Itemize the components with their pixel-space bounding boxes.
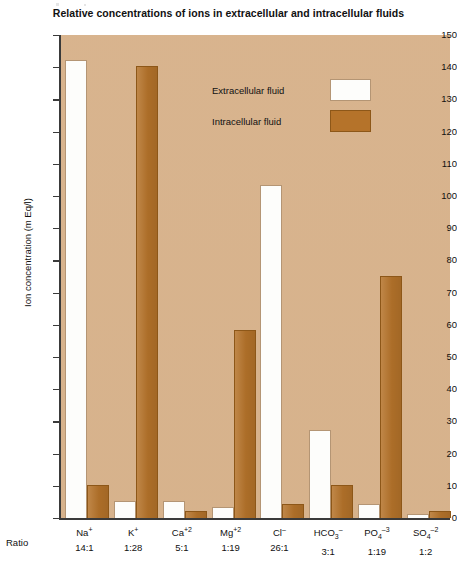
ion-label: Mg+2: [206, 522, 255, 540]
x-axis-category: SO4–21:2: [401, 522, 450, 559]
y-axis-tick: [53, 260, 60, 261]
bar-intracellular: [136, 66, 158, 518]
ratio-row-label: Ratio: [6, 537, 28, 548]
bar-extracellular: [407, 514, 429, 518]
bar-extracellular: [260, 185, 282, 518]
ion-label: Cl–: [255, 522, 304, 540]
legend-item-intracellular: Intracellular fluid: [212, 111, 371, 131]
bar-extracellular: [114, 501, 136, 518]
x-axis-category: HCO3–3:1: [304, 522, 353, 559]
y-axis-tick: [53, 454, 60, 455]
y-axis-tick: [53, 518, 60, 519]
y-axis-tick: [53, 389, 60, 390]
bar-extracellular: [212, 507, 234, 518]
y-axis-tick: [53, 293, 60, 294]
y-axis-tick: [53, 99, 60, 100]
y-axis-tick: [53, 132, 60, 133]
ion-ratio: 1:19: [206, 540, 255, 555]
y-axis-tick: [53, 164, 60, 165]
bar-extracellular: [65, 60, 87, 518]
y-axis-tick: [53, 486, 60, 487]
bar-intracellular: [87, 485, 109, 518]
y-axis-tick: [53, 228, 60, 229]
bar-intracellular: [282, 504, 304, 518]
bar-intracellular: [429, 511, 451, 518]
x-axis-line: [59, 518, 450, 520]
x-axis-category-labels: Na+14:1K+1:28Ca+25:1Mg+21:19Cl–26:1HCO3–…: [60, 522, 450, 566]
ion-ratio: 26:1: [255, 540, 304, 555]
legend-label-extracellular: Extracellular fluid: [212, 85, 330, 96]
bar-group: [65, 35, 107, 518]
bar-extracellular: [358, 504, 380, 518]
x-axis-category: Na+14:1: [60, 522, 109, 555]
bar-chart: Relative concentrations of ions in extra…: [0, 0, 457, 566]
x-axis-category: Cl–26:1: [255, 522, 304, 555]
ion-label: PO4–3: [353, 522, 402, 544]
bar-group: [163, 35, 205, 518]
ion-ratio: 5:1: [158, 540, 207, 555]
scan-speck: [56, 3, 59, 6]
ion-ratio: 14:1: [60, 540, 109, 555]
bar-extracellular: [309, 430, 331, 518]
ion-ratio: 1:19: [353, 544, 402, 559]
ion-ratio: 1:28: [109, 540, 158, 555]
bar-intracellular: [185, 511, 207, 518]
y-axis-tick: [53, 67, 60, 68]
y-axis-title: Ion concentration (m Eq/l): [22, 173, 33, 333]
ion-label: HCO3–: [304, 522, 353, 544]
bar-intracellular: [234, 330, 256, 518]
chart-legend: Extracellular fluid Intracellular fluid: [212, 80, 371, 142]
bar-intracellular: [331, 485, 353, 518]
legend-item-extracellular: Extracellular fluid: [212, 80, 371, 100]
bar-group: [114, 35, 156, 518]
y-axis-tick: [53, 325, 60, 326]
legend-swatch-extracellular: [330, 79, 371, 101]
y-axis-tick: [53, 35, 60, 36]
y-axis-tick: [53, 196, 60, 197]
x-axis-category: PO4–31:19: [353, 522, 402, 559]
ion-label: Ca+2: [158, 522, 207, 540]
bar-extracellular: [163, 501, 185, 518]
bar-intracellular: [380, 276, 402, 519]
ion-ratio: 1:2: [401, 544, 450, 559]
ion-label: Na+: [60, 522, 109, 540]
ion-label: SO4–2: [401, 522, 450, 544]
ion-ratio: 3:1: [304, 544, 353, 559]
legend-label-intracellular: Intracellular fluid: [212, 116, 330, 127]
x-axis-category: K+1:28: [109, 522, 158, 555]
y-axis-tick: [53, 421, 60, 422]
bar-group: [407, 35, 449, 518]
chart-title: Relative concentrations of ions in extra…: [0, 7, 457, 19]
legend-swatch-intracellular: [330, 110, 371, 132]
x-axis-category: Mg+21:19: [206, 522, 255, 555]
ion-label: K+: [109, 522, 158, 540]
scan-speck: [84, 4, 86, 6]
x-axis-category: Ca+25:1: [158, 522, 207, 555]
y-axis-tick: [53, 357, 60, 358]
